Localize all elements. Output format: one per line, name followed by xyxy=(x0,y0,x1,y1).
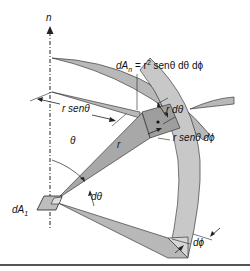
radius-cone xyxy=(57,113,150,199)
bottom-rule xyxy=(0,264,250,266)
arrowhead-icon xyxy=(210,231,215,237)
eq-lhs: dA xyxy=(116,60,128,71)
eq-rhs-2: senθ dθ dϕ xyxy=(151,60,203,71)
radius-label: r xyxy=(117,140,120,150)
base-wedge xyxy=(58,203,188,258)
r-dtheta-label: r dθ xyxy=(166,105,183,115)
dAn-center-dot xyxy=(156,120,159,123)
dtheta-label: dθ xyxy=(91,192,102,202)
dphi-label: dϕ xyxy=(193,238,204,248)
eq-rhs-1: = r xyxy=(132,60,147,71)
dA1-text: dA xyxy=(12,204,24,215)
r-sentheta-label: r senθ xyxy=(62,104,90,114)
arrowhead-icon xyxy=(109,117,116,122)
normal-arrowhead-icon xyxy=(47,26,54,34)
normal-label: n xyxy=(46,13,52,23)
theta-label: θ xyxy=(70,136,75,146)
r-sentheta-dphi-label: r senθ dϕ xyxy=(173,133,215,143)
side-ring-wedge xyxy=(190,97,234,109)
dA1-label: dA1 xyxy=(12,205,28,215)
area-element-equation: dAn = r2 senθ dθ dϕ xyxy=(116,61,203,71)
dA1-sub: 1 xyxy=(24,210,28,217)
r-sentheta-dphi-leader xyxy=(158,138,170,140)
